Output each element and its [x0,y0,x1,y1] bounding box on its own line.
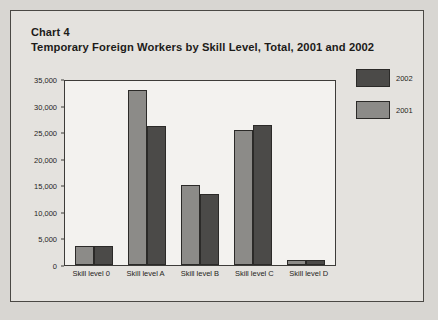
bar-group [287,81,325,265]
legend-label-2001: 2001 [396,106,413,115]
plot-wrapper: 05,00010,00015,00020,00025,00030,00035,0… [11,11,425,303]
page-background: Chart 4 Temporary Foreign Workers by Ski… [0,0,438,320]
bar-2001-skill-level-b[interactable] [181,185,200,265]
x-axis-tick-label: Skill level 0 [65,269,117,278]
y-axis-tick-label: 20,000 [34,155,57,164]
bar-2002-skill-level-c[interactable] [253,125,272,265]
bar-2002-skill-level-b[interactable] [200,194,219,265]
chart-frame: Chart 4 Temporary Foreign Workers by Ski… [10,10,424,302]
bar-group [234,81,272,265]
bar-group [75,81,113,265]
legend-label-2002: 2002 [396,74,413,83]
bar-2002-skill-level-d[interactable] [306,260,325,265]
legend-swatch-2001 [356,101,390,119]
x-axis-tick-label: Skill level B [174,269,226,278]
y-axis-tick-label: 25,000 [34,129,57,138]
x-axis: Skill level 0Skill level ASkill level BS… [64,269,336,287]
bar-2001-skill-level-c[interactable] [234,130,253,265]
y-axis-tick-label: 35,000 [34,76,57,85]
bar-2002-skill-level-0[interactable] [94,246,113,265]
x-axis-tick-label: Skill level A [120,269,172,278]
y-axis-tick-label: 15,000 [34,182,57,191]
y-axis-tick-label: 30,000 [34,102,57,111]
legend-item-2001: 2001 [356,101,418,119]
y-axis-tick-label: 0 [53,262,57,271]
legend-swatch-2002 [356,69,390,87]
bar-group [181,81,219,265]
bar-group [128,81,166,265]
bar-2001-skill-level-a[interactable] [128,90,147,265]
legend-item-2002: 2002 [356,69,418,87]
bar-2001-skill-level-d[interactable] [287,260,306,265]
y-axis-tick-label: 5,000 [38,235,57,244]
y-axis: 05,00010,00015,00020,00025,00030,00035,0… [11,80,61,266]
legend: 2002 2001 [356,69,418,133]
bar-2001-skill-level-0[interactable] [75,246,94,265]
y-axis-tick-label: 10,000 [34,208,57,217]
plot-area [64,80,336,266]
x-axis-tick-label: Skill level D [283,269,335,278]
bar-groups [65,81,335,265]
x-axis-tick-label: Skill level C [228,269,280,278]
bar-2002-skill-level-a[interactable] [147,126,166,265]
